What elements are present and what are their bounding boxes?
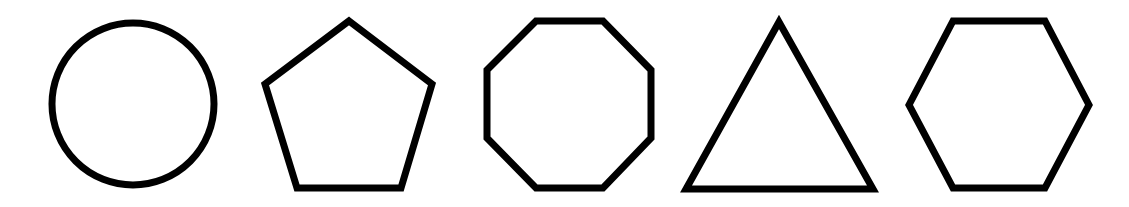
shapes-figure xyxy=(0,0,1129,207)
triangle-shape xyxy=(686,22,873,189)
pentagon-shape xyxy=(265,21,432,188)
octagon-shape xyxy=(487,21,651,188)
circle-shape xyxy=(52,23,214,185)
hexagon-shape xyxy=(909,21,1089,188)
